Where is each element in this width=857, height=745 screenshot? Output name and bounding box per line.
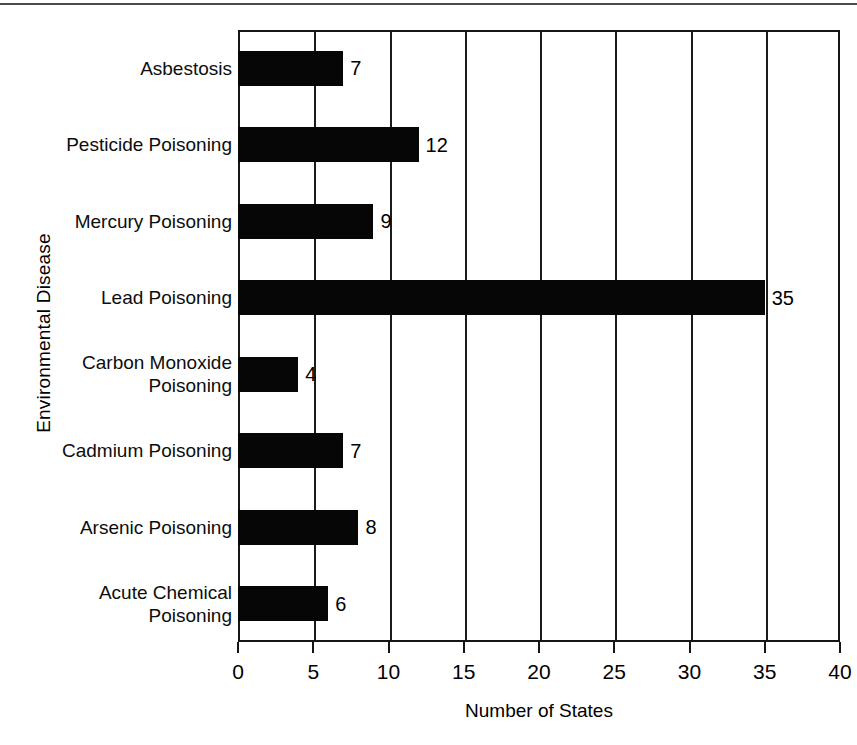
bars-layer: 7129354786 (238, 30, 840, 642)
category-label: Cadmium Poisoning (0, 439, 232, 462)
bar (238, 433, 343, 468)
bar (238, 127, 419, 162)
x-tick-label: 5 (307, 661, 319, 682)
x-tick-mark (463, 642, 465, 653)
x-tick-label: 10 (377, 661, 400, 682)
bar (238, 280, 765, 315)
x-tick-label: 20 (527, 661, 550, 682)
category-label: Pesticide Poisoning (0, 133, 232, 156)
category-label: Acute Chemical Poisoning (0, 581, 232, 627)
y-axis-title: Environmental Disease (33, 203, 55, 463)
x-tick-mark (538, 642, 540, 653)
x-tick-label: 15 (452, 661, 475, 682)
category-label: Carbon Monoxide Poisoning (0, 351, 232, 397)
category-label: Arsenic Poisoning (0, 516, 232, 539)
x-axis-title: Number of States (238, 700, 840, 722)
bar (238, 204, 373, 239)
bar-value-label: 12 (426, 135, 448, 155)
x-tick-mark (312, 642, 314, 653)
category-label: Asbestosis (0, 57, 232, 80)
x-tick-label: 35 (753, 661, 776, 682)
bar-value-label: 9 (380, 211, 391, 231)
bar-value-label: 4 (305, 364, 316, 384)
bar-value-label: 35 (772, 288, 794, 308)
bar (238, 586, 328, 621)
category-label: Lead Poisoning (0, 286, 232, 309)
bar-value-label: 6 (335, 594, 346, 614)
bar-value-label: 8 (365, 517, 376, 537)
scan-artifact-line (0, 3, 857, 5)
x-tick-label: 30 (678, 661, 701, 682)
bar-chart-figure: Environmental Disease 7129354786 Asbesto… (0, 0, 857, 745)
category-label: Mercury Poisoning (0, 210, 232, 233)
x-tick-label: 25 (603, 661, 626, 682)
x-tick-label: 0 (232, 661, 244, 682)
x-tick-mark (689, 642, 691, 653)
x-tick-mark (613, 642, 615, 653)
bar-value-label: 7 (350, 441, 361, 461)
x-tick-mark (764, 642, 766, 653)
bar (238, 357, 298, 392)
x-tick-label: 40 (828, 661, 851, 682)
bar-value-label: 7 (350, 58, 361, 78)
bar (238, 51, 343, 86)
x-tick-mark (237, 642, 239, 653)
bar (238, 510, 358, 545)
x-tick-mark (839, 642, 841, 653)
x-tick-mark (388, 642, 390, 653)
